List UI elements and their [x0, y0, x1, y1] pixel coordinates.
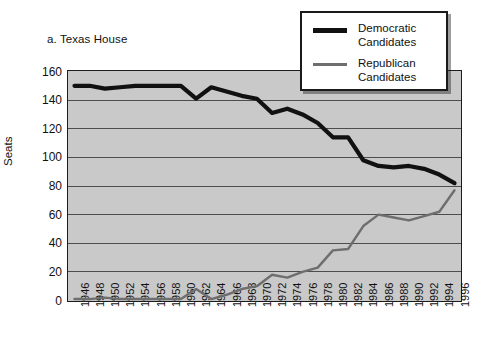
x-tick-label: 1992 [429, 283, 440, 307]
x-tick-label: 1982 [353, 283, 364, 307]
legend-swatch-republican-icon [302, 57, 358, 66]
x-tick-label: 1970 [262, 283, 273, 307]
chart-figure: a. Texas House Seats 0204060801001201401… [0, 0, 487, 361]
x-tick-label: 1960 [186, 283, 197, 307]
legend-label-republican: Republican Candidates [358, 57, 416, 84]
x-tick-label: 1964 [216, 283, 227, 307]
x-tick-label: 1986 [384, 283, 395, 307]
x-tick-label: 1948 [95, 283, 106, 307]
x-tick-label: 1950 [110, 283, 121, 307]
x-tick-label: 1952 [125, 283, 136, 307]
legend-entry-republican: Republican Candidates [302, 57, 450, 84]
x-tick-label: 1984 [368, 283, 379, 307]
x-tick-label: 1988 [399, 283, 410, 307]
x-tick-label: 1956 [156, 283, 167, 307]
legend-entry-democratic: Democratic Candidates [302, 22, 450, 49]
x-tick-label: 1996 [460, 283, 471, 307]
legend-label-republican-line2: Candidates [358, 71, 416, 85]
legend-label-republican-line1: Republican [358, 57, 416, 71]
x-tick-label: 1954 [140, 283, 151, 307]
x-tick-label: 1974 [292, 283, 303, 307]
x-tick-label: 1978 [323, 283, 334, 307]
legend-label-democratic-line1: Democratic [358, 22, 416, 36]
x-tick-label: 1990 [414, 283, 425, 307]
x-tick-label: 1958 [171, 283, 182, 307]
legend-swatch-democratic-icon [302, 22, 358, 33]
legend-label-democratic: Democratic Candidates [358, 22, 416, 49]
x-tick-label: 1946 [80, 283, 91, 307]
x-tick-label: 1976 [308, 283, 319, 307]
x-tick-label: 1972 [277, 283, 288, 307]
x-tick-label: 1980 [338, 283, 349, 307]
x-tick-label: 1966 [232, 283, 243, 307]
x-tick-label: 1968 [247, 283, 258, 307]
legend-label-democratic-line2: Candidates [358, 36, 416, 50]
x-tick-label: 1994 [444, 283, 455, 307]
x-tick-label: 1962 [201, 283, 212, 307]
legend: Democratic Candidates Republican Candida… [300, 11, 448, 91]
